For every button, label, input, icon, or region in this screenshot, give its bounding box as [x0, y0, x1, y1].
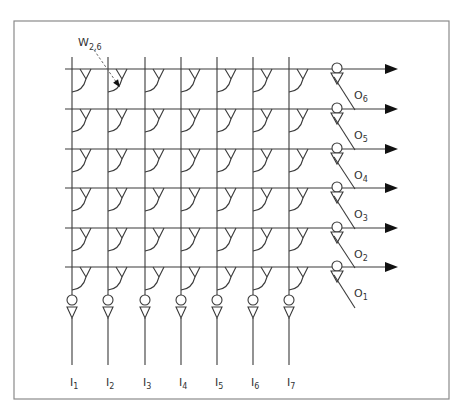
output-label: O4 — [354, 169, 368, 184]
output-inverter-bubble-icon — [332, 63, 342, 73]
synapse-cell — [108, 267, 127, 290]
synapse-cell — [289, 149, 308, 172]
input-inverter-bubble-icon — [176, 295, 186, 305]
input-label: I7 — [287, 376, 295, 391]
input-inverter-bubble-icon — [212, 295, 222, 305]
synapse-cell — [181, 267, 200, 290]
weight-annotation: W2,6 — [78, 36, 120, 87]
synapse-cell — [217, 109, 236, 132]
synapse-cell — [72, 109, 91, 132]
synapse-cell — [253, 109, 272, 132]
synapse-cell — [181, 109, 200, 132]
weight-label: W2,6 — [78, 36, 102, 52]
neural-crossbar-diagram: I1I2I3I4I5I6I7 O6O5O4O3O2O1 W2,6 — [0, 0, 463, 417]
input-label: I4 — [179, 376, 187, 391]
input-buffer-triangle-icon — [248, 307, 258, 318]
output-label: O3 — [354, 208, 368, 223]
input-buffer-triangle-icon — [284, 307, 294, 318]
synapse-cell — [217, 267, 236, 290]
synapse-cell — [253, 188, 272, 211]
output-arrowhead-icon — [385, 223, 398, 233]
input-inverter-bubble-icon — [67, 295, 77, 305]
synapse-cell — [145, 188, 164, 211]
synapse-cell — [72, 267, 91, 290]
weight-pointer-dashed-arrow — [94, 50, 119, 86]
synapse-cell — [108, 109, 127, 132]
output-inverter-bubble-icon — [332, 261, 342, 271]
output-arrowhead-icon — [385, 183, 398, 193]
output-lead-wire — [334, 275, 355, 308]
synapse-cell — [181, 69, 200, 92]
output-label: O6 — [354, 89, 368, 104]
output-label: O5 — [354, 129, 368, 144]
input-buffer-triangle-icon — [103, 307, 113, 318]
column-wires — [72, 57, 289, 365]
output-label: O1 — [354, 287, 368, 302]
synapse-cell — [108, 188, 127, 211]
synapse-cell — [289, 188, 308, 211]
synapse-cell — [289, 228, 308, 251]
input-label: I3 — [143, 376, 151, 391]
synapse-cell — [181, 188, 200, 211]
synapse-cell — [145, 228, 164, 251]
output-arrowhead-icon — [385, 64, 398, 74]
synapse-cell — [72, 228, 91, 251]
synapse-cell — [217, 228, 236, 251]
input-label: I6 — [251, 376, 259, 391]
input-inverter-bubble-icon — [140, 295, 150, 305]
synapse-cell — [72, 149, 91, 172]
synapse-cell — [289, 69, 308, 92]
synapse-cell — [145, 69, 164, 92]
output-arrowhead-icon — [385, 104, 398, 114]
synapse-cells — [72, 69, 308, 290]
output-arrowhead-icon — [385, 262, 398, 272]
synapse-cell — [253, 149, 272, 172]
synapse-cell — [145, 267, 164, 290]
input-inverter-bubble-icon — [284, 295, 294, 305]
input-buffer-triangle-icon — [176, 307, 186, 318]
weight-pointer-arrowhead-icon — [113, 79, 120, 87]
synapse-cell — [289, 267, 308, 290]
synapse-cell — [181, 149, 200, 172]
output-arrowhead-icon — [385, 144, 398, 154]
input-buffer-triangle-icon — [140, 307, 150, 318]
synapse-cell — [181, 228, 200, 251]
input-inverter-bubble-icon — [103, 295, 113, 305]
synapse-cell — [72, 69, 91, 92]
output-gates: O6O5O4O3O2O1 — [331, 63, 368, 308]
output-inverter-bubble-icon — [332, 222, 342, 232]
input-buffer-triangle-icon — [67, 307, 77, 318]
output-inverter-bubble-icon — [332, 182, 342, 192]
output-inverter-bubble-icon — [332, 103, 342, 113]
synapse-cell — [253, 228, 272, 251]
input-buffer-triangle-icon — [212, 307, 222, 318]
synapse-cell — [145, 149, 164, 172]
crossbar-svg: I1I2I3I4I5I6I7 O6O5O4O3O2O1 W2,6 — [0, 0, 463, 417]
synapse-cell — [72, 188, 91, 211]
synapse-cell — [217, 69, 236, 92]
synapse-cell — [108, 228, 127, 251]
row-wires — [65, 64, 398, 272]
synapse-cell — [253, 69, 272, 92]
output-inverter-bubble-icon — [332, 143, 342, 153]
synapse-cell — [253, 267, 272, 290]
synapse-cell — [108, 149, 127, 172]
input-label: I5 — [215, 376, 223, 391]
synapse-cell — [289, 109, 308, 132]
input-inverter-bubble-icon — [248, 295, 258, 305]
synapse-cell — [217, 188, 236, 211]
input-label: I2 — [106, 376, 114, 391]
synapse-cell — [145, 109, 164, 132]
input-label: I1 — [70, 376, 78, 391]
output-label: O2 — [354, 248, 368, 263]
synapse-cell — [217, 149, 236, 172]
